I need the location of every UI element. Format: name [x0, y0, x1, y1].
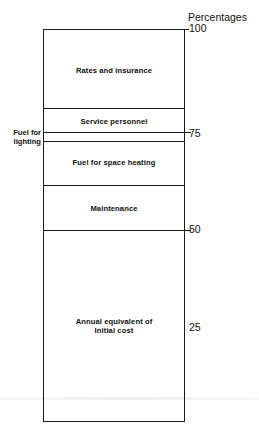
segment-label-service: Service personnel [43, 117, 185, 126]
tick-label-75: 75 [189, 128, 201, 139]
segment-label-maintenance: Maintenance [43, 204, 185, 213]
segment-label-initial-cost: Annual equivalent of Initial cost [43, 317, 185, 335]
segment-label-initial-line1: Annual equivalent of [43, 317, 185, 326]
segment-label-lighting-line1: Fuel for [1, 128, 41, 137]
tick-label-50: 50 [189, 224, 201, 235]
tick-label-25: 25 [189, 322, 201, 333]
divider-lighting-heating [43, 141, 185, 142]
divider-heating-maintenance [43, 185, 185, 186]
stacked-bar [43, 29, 185, 422]
divider-maintenance-initial [43, 230, 191, 231]
segment-label-lighting: Fuel for lighting [1, 128, 41, 146]
segment-label-rates: Rates and insurance [43, 66, 185, 75]
segment-label-initial-line2: Initial cost [43, 326, 185, 335]
divider-service-lighting [43, 132, 191, 133]
divider-rates-service [43, 108, 185, 109]
tick-label-100: 100 [189, 23, 207, 34]
segment-label-heating: Fuel for space heating [43, 158, 185, 167]
segment-label-lighting-line2: lighting [1, 137, 41, 146]
